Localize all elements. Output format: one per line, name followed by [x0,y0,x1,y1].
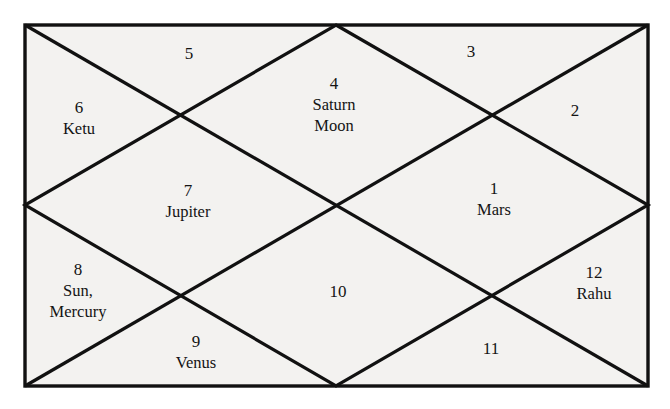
house-1-number: 1 [490,179,499,198]
house-4-planet-2: Moon [314,116,353,135]
house-9-number: 9 [192,332,201,351]
house-12-planet-1: Rahu [577,284,612,303]
house-7-planet-1: Jupiter [166,202,211,221]
house-9-planet-1: Venus [176,353,216,372]
chart-page: 1 Mars 2 3 4 Saturn Moon 5 6 Ketu 7 Ju [0,0,670,409]
house-8-number: 8 [74,260,83,279]
house-4-number: 4 [330,74,339,93]
house-5-number: 5 [185,44,194,63]
house-4-planet-1: Saturn [312,95,355,114]
house-1-planet-1: Mars [477,200,511,219]
house-3[interactable]: 3 [467,42,476,61]
house-10-number: 10 [330,282,347,301]
house-5[interactable]: 5 [185,44,194,63]
house-7-number: 7 [184,181,193,200]
house-10[interactable]: 10 [330,282,347,301]
house-8-planet-1: Sun, [63,281,93,300]
house-6-number: 6 [75,98,84,117]
house-3-number: 3 [467,42,476,61]
house-8-planet-2: Mercury [50,302,108,321]
house-11-number: 11 [483,339,499,358]
house-2-number: 2 [571,101,580,120]
house-6-planet-1: Ketu [63,119,95,138]
kundali-chart: 1 Mars 2 3 4 Saturn Moon 5 6 Ketu 7 Ju [0,0,670,409]
house-2[interactable]: 2 [571,101,580,120]
house-12-number: 12 [586,263,603,282]
house-11[interactable]: 11 [483,339,499,358]
